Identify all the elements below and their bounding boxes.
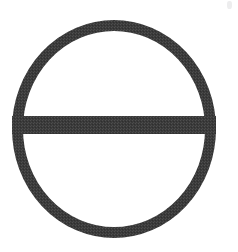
figure-group (0, 0, 238, 252)
image-canvas: Circle bisected by a horizontal diameter… (0, 0, 238, 252)
scan-speck-artifact-icon (227, 1, 232, 9)
circle-outline-and-diameter-shape (0, 0, 238, 252)
circle-with-horizontal-diameter-glyph (0, 0, 238, 252)
